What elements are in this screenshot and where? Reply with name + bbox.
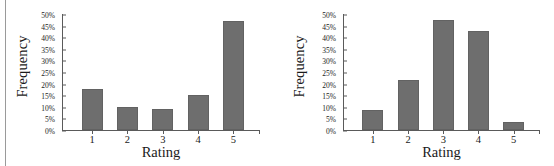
y-tick-mark bbox=[62, 73, 66, 74]
y-axis-ticks-left: 0%5%10%15%20%25%30%35%40%45%50% bbox=[26, 14, 58, 131]
y-tick-mark bbox=[343, 73, 347, 74]
y-tick-label: 0% bbox=[45, 127, 55, 136]
y-tick-mark bbox=[343, 15, 347, 16]
bar bbox=[188, 95, 209, 130]
y-tick-mark bbox=[343, 61, 347, 62]
bar bbox=[468, 31, 489, 130]
y-tick-label: 45% bbox=[41, 22, 55, 31]
y-tick-label: 50% bbox=[322, 11, 336, 20]
y-tick-label: 40% bbox=[41, 34, 55, 43]
bar bbox=[82, 89, 103, 130]
y-tick-mark bbox=[62, 49, 66, 50]
x-tick-mark bbox=[539, 131, 540, 134]
y-tick-label: 30% bbox=[41, 57, 55, 66]
plot-area-right bbox=[343, 14, 540, 131]
y-tick-label: 40% bbox=[322, 34, 336, 43]
y-tick-label: 20% bbox=[322, 80, 336, 89]
y-tick-mark bbox=[343, 107, 347, 108]
bar bbox=[398, 80, 419, 130]
y-tick-mark bbox=[62, 96, 66, 97]
y-tick-label: 10% bbox=[41, 103, 55, 112]
x-tick-mark bbox=[259, 131, 260, 134]
bar-chart-left: Frequency 0%5%10%15%20%25%30%35%40%45%50… bbox=[0, 0, 277, 166]
y-tick-mark bbox=[62, 119, 66, 120]
bar-chart-right: Frequency 0%5%10%15%20%25%30%35%40%45%50… bbox=[277, 0, 554, 166]
figure-panel: Frequency 0%5%10%15%20%25%30%35%40%45%50… bbox=[0, 0, 554, 166]
y-tick-label: 25% bbox=[41, 69, 55, 78]
charts-row: Frequency 0%5%10%15%20%25%30%35%40%45%50… bbox=[0, 0, 554, 166]
y-axis-title-right-text: Frequency bbox=[291, 35, 308, 97]
plot-area-left bbox=[62, 14, 260, 131]
y-tick-mark bbox=[343, 96, 347, 97]
y-tick-label: 50% bbox=[41, 11, 55, 20]
y-tick-mark bbox=[62, 84, 66, 85]
y-tick-mark bbox=[343, 84, 347, 85]
y-tick-mark bbox=[62, 61, 66, 62]
y-tick-mark bbox=[62, 15, 66, 16]
y-tick-label: 15% bbox=[322, 92, 336, 101]
bars-left bbox=[62, 14, 260, 130]
y-tick-mark bbox=[343, 119, 347, 120]
y-tick-label: 10% bbox=[322, 103, 336, 112]
y-tick-mark bbox=[343, 38, 347, 39]
y-axis-ticks-right: 0%5%10%15%20%25%30%35%40%45%50% bbox=[307, 14, 339, 131]
y-tick-label: 35% bbox=[41, 45, 55, 54]
y-tick-label: 0% bbox=[326, 127, 336, 136]
y-tick-label: 45% bbox=[322, 22, 336, 31]
y-tick-label: 30% bbox=[322, 57, 336, 66]
y-tick-mark bbox=[343, 26, 347, 27]
bar bbox=[152, 109, 173, 130]
bar bbox=[362, 110, 383, 130]
y-tick-mark bbox=[62, 107, 66, 108]
bar bbox=[433, 20, 454, 130]
bars-right bbox=[343, 14, 540, 130]
bar bbox=[117, 107, 138, 130]
y-tick-label: 20% bbox=[41, 80, 55, 89]
y-tick-mark bbox=[62, 38, 66, 39]
y-tick-label: 5% bbox=[45, 115, 55, 124]
y-tick-label: 15% bbox=[41, 92, 55, 101]
x-axis-title-right: Rating bbox=[343, 144, 540, 161]
x-axis-title-left: Rating bbox=[62, 144, 260, 161]
y-tick-mark bbox=[343, 49, 347, 50]
bar bbox=[503, 122, 524, 130]
y-tick-label: 5% bbox=[326, 115, 336, 124]
bar bbox=[223, 21, 244, 130]
y-tick-label: 35% bbox=[322, 45, 336, 54]
y-tick-mark bbox=[62, 26, 66, 27]
y-tick-label: 25% bbox=[322, 69, 336, 78]
